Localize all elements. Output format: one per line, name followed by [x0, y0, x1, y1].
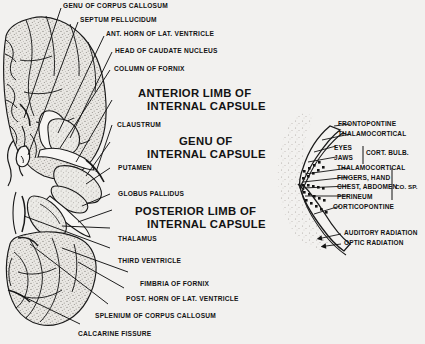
label-auditory-radiation: AUDITORY RADIATION — [344, 230, 418, 237]
label-posterior-limb-line2: INTERNAL CAPSULE — [147, 219, 266, 231]
label-optic-radiation: OPTIC RADIATION — [344, 240, 404, 247]
label-thalamus: THALAMUS — [118, 236, 157, 243]
label-perineum: PERINEUM — [337, 194, 373, 201]
label-septum-pellucidum: SEPTUM PELLUCIDUM — [80, 17, 157, 24]
label-thalamocortical-1: THALAMOCORTICAL — [338, 131, 406, 138]
label-posterior-limb-line1: POSTERIOR LIMB OF — [135, 206, 256, 218]
label-claustrum: CLAUSTRUM — [117, 122, 161, 129]
label-column-of-fornix: COLUMN OF FORNIX — [114, 66, 185, 73]
label-globus-pallidus: GLOBUS PALLIDUS — [118, 191, 184, 198]
label-chest-abdomen: CHEST, ABDOMEN — [337, 184, 397, 191]
label-head-of-caudate-nucleus: HEAD OF CAUDATE NUCLEUS — [115, 48, 218, 55]
label-genu-internal-capsule-line2: INTERNAL CAPSULE — [147, 149, 266, 161]
label-co-sp: CO. SP. — [395, 184, 418, 191]
label-genu-internal-capsule-line1: GENU OF — [179, 136, 233, 148]
label-anterior-limb-line1: ANTERIOR LIMB OF — [138, 88, 251, 100]
label-fingers-hand: FINGERS, HAND — [337, 175, 390, 182]
label-putamen: PUTAMEN — [118, 165, 152, 172]
label-post-horn-lat-ventricle: POST. HORN OF LAT. VENTRICLE — [126, 296, 239, 303]
label-jaws: JAWS — [334, 155, 353, 162]
label-anterior-limb-line2: INTERNAL CAPSULE — [147, 101, 266, 113]
label-frontopontine: FRONTOPONTINE — [338, 121, 396, 128]
label-splenium-corpus-callosum: SPLENIUM OF CORPUS CALLOSUM — [95, 313, 216, 320]
label-calcarine-fissure: CALCARINE FISSURE — [78, 331, 152, 338]
label-third-ventricle: THIRD VENTRICLE — [118, 258, 181, 265]
label-ant-horn-lat-ventricle: ANT. HORN OF LAT. VENTRICLE — [106, 31, 214, 38]
label-fimbria-of-fornix: FIMBRIA OF FORNIX — [140, 281, 209, 288]
label-thalamocortical-2: THALAMOCORTICAL — [337, 165, 405, 172]
label-eyes: EYES — [334, 145, 352, 152]
label-corticopontine: CORTICOPONTINE — [333, 204, 394, 211]
label-genu-corpus-callosum: GENU OF CORPUS CALLOSUM — [63, 3, 168, 10]
label-cort-bulb: CORT. BULB. — [366, 150, 409, 157]
